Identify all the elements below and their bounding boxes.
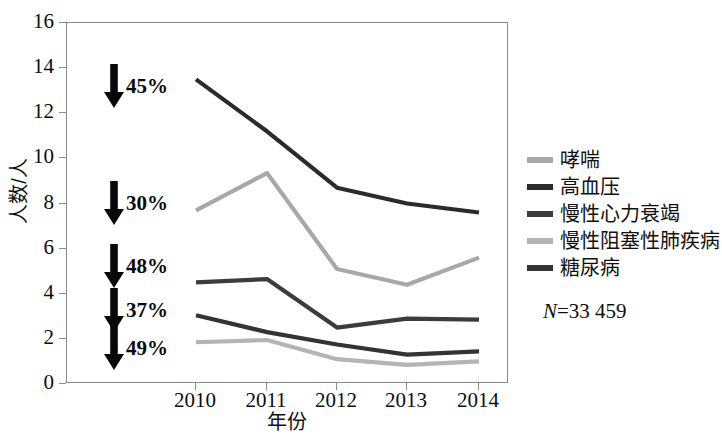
legend-swatch	[527, 211, 553, 217]
x-tick-label: 2010	[155, 389, 235, 412]
annotation-45: 45%	[103, 63, 168, 109]
legend-swatch	[527, 184, 553, 190]
down-arrow-icon	[103, 180, 125, 226]
chart-figure: 1614121086420 20102011201220132014 年份 人数…	[0, 0, 722, 437]
legend-label: 慢性阻塞性肺疾病	[560, 230, 720, 252]
y-axis-title: 人数/人	[8, 136, 30, 246]
x-tick-label: 2014	[438, 389, 518, 412]
legend-label: 糖尿病	[560, 257, 620, 279]
legend-item: 高血压	[527, 173, 722, 200]
x-tick-mark	[406, 383, 407, 390]
sample-size-value: =33 459	[557, 299, 627, 323]
down-arrow-icon	[103, 243, 125, 289]
x-tick-mark	[336, 383, 337, 390]
legend: 哮喘高血压慢性心力衰竭慢性阻塞性肺疾病糖尿病	[527, 146, 722, 281]
down-arrow-icon	[103, 63, 125, 109]
x-tick-mark	[195, 383, 196, 390]
annotation-30: 30%	[103, 180, 168, 226]
x-axis-title: 年份	[66, 411, 508, 433]
annotation-label: 45%	[126, 76, 168, 97]
x-tick-mark	[478, 383, 479, 390]
legend-item: 慢性阻塞性肺疾病	[527, 227, 722, 254]
x-tick-mark	[266, 383, 267, 390]
legend-item: 糖尿病	[527, 254, 722, 281]
annotation-label: 48%	[126, 256, 168, 277]
sample-size-note: N=33 459	[543, 300, 627, 322]
annotation-48: 48%	[103, 243, 168, 289]
legend-swatch	[527, 265, 553, 271]
x-tick-label: 2012	[296, 389, 376, 412]
annotation-label: 49%	[126, 338, 168, 359]
legend-swatch	[527, 238, 553, 244]
annotation-label: 30%	[126, 193, 168, 214]
down-arrow-icon	[103, 325, 125, 371]
sample-size-symbol: N	[543, 299, 557, 323]
legend-swatch	[527, 157, 553, 163]
legend-label: 高血压	[560, 176, 620, 198]
legend-label: 慢性心力衰竭	[560, 203, 680, 225]
annotation-49: 49%	[103, 325, 168, 371]
x-tick-label: 2013	[366, 389, 446, 412]
legend-label: 哮喘	[560, 149, 600, 171]
legend-item: 哮喘	[527, 146, 722, 173]
annotation-label: 37%	[126, 300, 168, 321]
legend-item: 慢性心力衰竭	[527, 200, 722, 227]
x-tick-label: 2011	[226, 389, 306, 412]
